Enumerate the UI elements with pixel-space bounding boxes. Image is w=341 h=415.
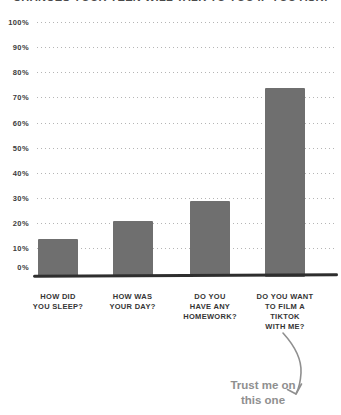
annotation-line-2: this one <box>217 393 309 408</box>
y-tick-10: 10% <box>0 244 29 253</box>
gridline-90 <box>37 47 336 48</box>
y-tick-60: 60% <box>0 118 29 127</box>
chart-title: CHANCES YOUR TEEN WILL TALK TO YOU IF YO… <box>0 0 341 3</box>
bar-chart: CHANCES YOUR TEEN WILL TALK TO YOU IF YO… <box>0 0 341 415</box>
y-tick-40: 40% <box>0 168 29 177</box>
y-tick-70: 70% <box>0 93 29 102</box>
bar-3 <box>190 201 230 276</box>
y-tick-30: 30% <box>0 194 29 203</box>
gridline-100 <box>37 22 336 23</box>
annotation-text: Trust me on this one <box>217 378 309 408</box>
annotation-line-1: Trust me on <box>217 378 309 393</box>
y-tick-100: 100% <box>0 18 29 27</box>
bar-1 <box>38 239 78 277</box>
x-label-2: HOW WAS YOUR DAY? <box>91 292 175 312</box>
x-axis-baseline <box>33 273 338 277</box>
y-tick-20: 20% <box>0 219 29 228</box>
gridline-80 <box>37 72 336 73</box>
y-tick-90: 90% <box>0 43 29 52</box>
bar-4 <box>265 88 305 277</box>
x-label-3: DO YOU HAVE ANY HOMEWORK? <box>168 292 252 322</box>
y-tick-0: 0% <box>0 263 29 272</box>
bar-2 <box>113 221 153 276</box>
y-tick-80: 80% <box>0 68 29 77</box>
y-tick-50: 50% <box>0 143 29 152</box>
x-label-4: DO YOU WANT TO FILM A TIKTOK WITH ME? <box>243 292 327 332</box>
x-label-1: HOW DID YOU SLEEP? <box>16 292 100 312</box>
